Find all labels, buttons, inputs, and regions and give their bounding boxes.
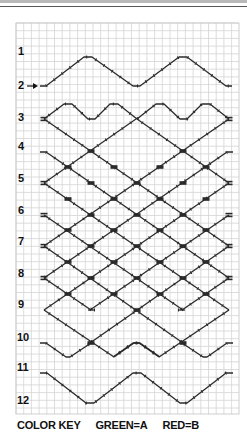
edge-knot-icon bbox=[226, 184, 233, 186]
knot-icon bbox=[65, 260, 72, 264]
knot-diagram bbox=[0, 0, 247, 436]
knot-icon bbox=[180, 149, 187, 153]
edge-knot-icon bbox=[41, 181, 48, 183]
knot-icon bbox=[157, 165, 164, 169]
edge-knot-icon bbox=[226, 181, 233, 183]
knot-icon bbox=[157, 228, 164, 232]
knot-icon bbox=[65, 228, 72, 232]
knot-icon bbox=[111, 165, 118, 169]
row-label-7: 7 bbox=[18, 236, 24, 247]
row-label-8: 8 bbox=[18, 268, 24, 279]
knot-icon bbox=[88, 149, 95, 153]
edge-knot-icon bbox=[226, 213, 233, 215]
knot-icon bbox=[65, 292, 72, 296]
edge-knot-icon bbox=[41, 184, 48, 186]
strand-row10-mid-mirror bbox=[113, 343, 159, 357]
row-label-10: 10 bbox=[17, 332, 29, 343]
edge-knot-icon bbox=[226, 244, 233, 246]
knot-icon bbox=[134, 213, 141, 217]
knot-icon bbox=[111, 197, 118, 201]
edge-knot-icon bbox=[41, 276, 48, 278]
knot-icon bbox=[203, 197, 210, 201]
edge-knot-icon bbox=[41, 117, 48, 119]
knot-icon bbox=[203, 228, 210, 232]
knot-icon bbox=[65, 165, 72, 169]
knot-icon bbox=[88, 181, 95, 185]
strand-row10-right bbox=[182, 343, 233, 357]
edge-knot-icon bbox=[41, 120, 48, 122]
color-key: COLOR KEY GREEN=A RED=B bbox=[17, 419, 199, 431]
knot-icon bbox=[180, 244, 187, 248]
edge-knot-icon bbox=[41, 247, 48, 249]
knot-icon bbox=[134, 276, 141, 280]
knot-icon bbox=[134, 308, 141, 312]
knot-icon bbox=[111, 260, 118, 264]
knot-icon bbox=[111, 228, 118, 232]
knot-icon bbox=[157, 197, 164, 201]
edge-knot-icon bbox=[226, 117, 233, 119]
strand-row3-zigzag bbox=[44, 104, 229, 119]
knot-icon bbox=[203, 165, 210, 169]
knot-icon bbox=[180, 276, 187, 280]
row-label-3: 3 bbox=[18, 112, 24, 123]
knot-icon bbox=[88, 244, 95, 248]
color-key-label: COLOR KEY bbox=[17, 419, 81, 431]
knot-icon bbox=[157, 260, 164, 264]
row-label-11: 11 bbox=[17, 362, 29, 373]
knot-icon bbox=[180, 181, 187, 185]
knot-icon bbox=[180, 341, 187, 345]
row-label-4: 4 bbox=[18, 141, 24, 152]
row-label-6: 6 bbox=[18, 205, 24, 216]
edge-knot-icon bbox=[41, 216, 48, 218]
knot-icon bbox=[65, 197, 72, 201]
row-label-1: 1 bbox=[18, 46, 24, 57]
knot-icon bbox=[203, 260, 210, 264]
knot-icon bbox=[88, 341, 95, 345]
row-label-9: 9 bbox=[18, 299, 24, 310]
color-key-green: GREEN=A bbox=[95, 419, 147, 431]
edge-knot-icon bbox=[226, 120, 233, 122]
knot-icon bbox=[88, 276, 95, 280]
strand-row10-mid bbox=[114, 343, 160, 357]
knot-icon bbox=[157, 292, 164, 296]
knot-icon bbox=[134, 181, 141, 185]
strand-row10-left bbox=[40, 343, 91, 357]
knot-icon bbox=[203, 292, 210, 296]
knot-icon bbox=[111, 292, 118, 296]
start-arrow-icon bbox=[27, 83, 38, 89]
edge-knot-icon bbox=[226, 279, 233, 281]
knot-icon bbox=[180, 213, 187, 217]
row-label-5: 5 bbox=[18, 173, 24, 184]
row-label-2: 2 bbox=[18, 80, 24, 91]
edge-knot-icon bbox=[226, 216, 233, 218]
edge-knot-icon bbox=[41, 244, 48, 246]
edge-knot-icon bbox=[41, 279, 48, 281]
knot-icon bbox=[134, 244, 141, 248]
knot-icon bbox=[88, 213, 95, 217]
edge-knot-icon bbox=[41, 213, 48, 215]
edge-knot-icon bbox=[226, 276, 233, 278]
edge-knot-icon bbox=[226, 247, 233, 249]
row-label-12: 12 bbox=[17, 395, 29, 406]
color-key-red: RED=B bbox=[162, 419, 199, 431]
